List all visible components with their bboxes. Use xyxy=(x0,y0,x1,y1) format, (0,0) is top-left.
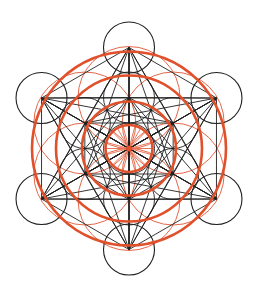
center-dot xyxy=(126,146,132,152)
sacred-geometry-figure xyxy=(0,0,256,297)
center-dot xyxy=(126,146,132,152)
